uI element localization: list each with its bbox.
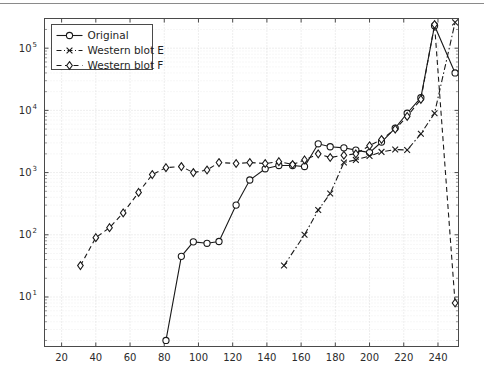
chart-page: 20406080100120140160180200220240 1011021… [0,0,484,391]
x-tick-label: 180 [326,352,345,363]
chart-legend[interactable]: OriginalWestern blot EWestern blot F [52,25,165,72]
x-tick-label: 80 [158,352,171,363]
x-tick-label: 200 [360,352,379,363]
x-tick-label: 20 [55,352,68,363]
svg-text:10: 10 [19,43,32,54]
svg-text:10: 10 [19,105,32,116]
svg-text:2: 2 [33,227,37,235]
x-tick-label: 100 [189,352,208,363]
svg-text:1: 1 [33,289,37,297]
y-tick-label: 105 [19,41,37,54]
series-original [163,23,458,344]
y-axis-tick-labels: 101102103104105 [19,41,38,303]
legend-label: Western blot E [88,44,165,56]
x-tick-label: 240 [428,352,447,363]
x-tick-label: 160 [292,352,311,363]
x-tick-label: 140 [257,352,276,363]
y-tick-label: 103 [19,165,37,178]
y-tick-label: 102 [19,227,37,240]
svg-text:10: 10 [19,229,32,240]
svg-text:10: 10 [19,167,32,178]
y-tick-label: 104 [19,103,38,116]
svg-text:10: 10 [19,291,32,302]
x-tick-label: 60 [124,352,137,363]
figure-container: 20406080100120140160180200220240 1011021… [0,0,484,391]
x-tick-label: 40 [89,352,102,363]
svg-text:4: 4 [33,103,38,111]
legend-label: Western blot F [88,59,164,71]
svg-text:5: 5 [33,41,37,49]
x-axis-tick-labels: 20406080100120140160180200220240 [55,352,447,363]
svg-text:3: 3 [33,165,37,173]
x-tick-label: 120 [223,352,242,363]
legend-label: Original [88,29,129,41]
x-tick-label: 220 [394,352,413,363]
y-tick-label: 101 [19,289,37,302]
legend-marker-circle-icon [66,32,72,38]
semilog-line-chart: 20406080100120140160180200220240 1011021… [0,0,484,391]
